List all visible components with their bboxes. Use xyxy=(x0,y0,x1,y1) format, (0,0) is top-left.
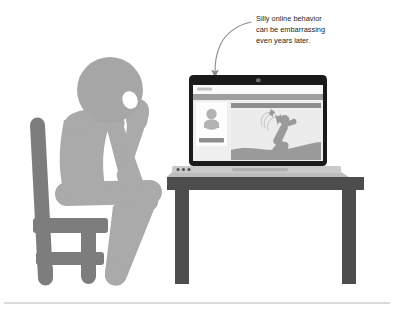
nav-bar[interactable] xyxy=(193,94,323,100)
site-header xyxy=(193,85,323,94)
scene-illustration: Silly online behavior can be embarrassin… xyxy=(0,0,394,316)
avatar-head xyxy=(206,109,216,119)
profile-action-button[interactable] xyxy=(199,138,224,143)
site-logo[interactable] xyxy=(197,88,212,91)
indicator-light-2 xyxy=(182,168,185,171)
laptop xyxy=(167,75,349,177)
profile-card xyxy=(196,102,227,146)
social-profile-page xyxy=(193,85,323,161)
avatar xyxy=(204,119,219,129)
desk-top xyxy=(167,177,364,190)
indicator-light-3 xyxy=(188,168,191,171)
callout-line-2: can be embarrassing xyxy=(256,25,325,34)
post-header-bar xyxy=(231,103,321,108)
desk-leg-right xyxy=(342,190,356,284)
post-photo xyxy=(231,103,321,160)
desk-leg-left xyxy=(175,190,189,284)
callout-line-1: Silly online behavior xyxy=(256,14,322,23)
head xyxy=(77,57,143,123)
callout-line-3: even years later. xyxy=(256,36,310,45)
trackpad[interactable] xyxy=(232,168,288,171)
indicator-light-1 xyxy=(177,168,180,171)
webcam-dot xyxy=(256,79,261,83)
